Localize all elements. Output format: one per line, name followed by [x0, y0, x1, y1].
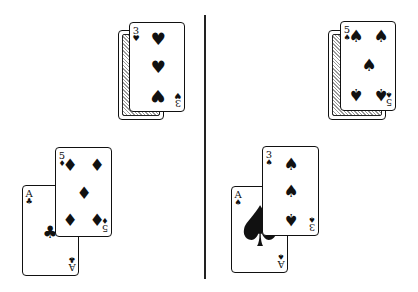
card-5-diamonds: 5♦ ♦ ♦ ♦ ♦ ♦ 5♦ — [55, 147, 112, 237]
card-index-bottom: 3♥ — [174, 91, 182, 108]
spade-icon: ♠ — [283, 156, 298, 173]
card-5-spades: 5♠ ♠ ♠ ♠ ♠ ♠ 5♠ — [340, 21, 396, 111]
card-index-bottom: A♠ — [277, 252, 285, 269]
card-index-bottom: 5♦ — [101, 216, 109, 233]
spade-icon: ♠ — [348, 86, 363, 103]
card-index-top: 3♠ — [265, 150, 273, 167]
spade-icon: ♠ — [361, 57, 376, 74]
diamond-icon: ♦ — [76, 185, 91, 202]
heart-icon: ♥ — [150, 59, 165, 76]
heart-icon: ♥ — [150, 31, 165, 48]
card-index-top: A♣ — [25, 189, 33, 206]
card-3-spades: 3♠ ♠ ♠ ♠ 3♠ — [262, 146, 319, 236]
card-index-bottom: 3♠ — [308, 215, 316, 232]
card-index-bottom: 5♠ — [385, 90, 393, 107]
center-divider — [204, 15, 206, 279]
spade-icon: ♠ — [348, 28, 363, 45]
spade-icon: ♠ — [373, 28, 388, 45]
spade-icon: ♠ — [283, 183, 298, 200]
card-3-hearts: 3♥ ♥ ♥ ♥ 3♥ — [129, 22, 185, 112]
diamond-icon: ♦ — [89, 157, 104, 174]
card-index-top: 3♥ — [132, 26, 140, 43]
diamond-icon: ♦ — [62, 157, 77, 174]
spade-icon: ♠ — [283, 211, 298, 228]
diamond-icon: ♦ — [62, 212, 77, 229]
heart-icon: ♥ — [150, 87, 165, 104]
card-index-bottom: A♣ — [68, 255, 76, 272]
